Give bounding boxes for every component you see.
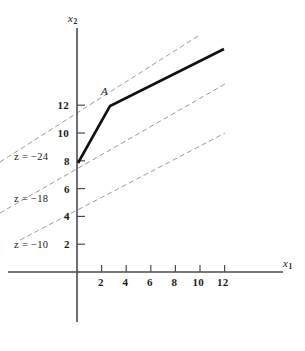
piecewise-linear-curve	[78, 49, 224, 163]
y-axis-ticks	[77, 105, 85, 244]
iso-label-z-minus-10: z = −10	[14, 240, 48, 251]
iso-line-z-minus-24	[0, 36, 198, 162]
plot-canvas	[0, 0, 305, 351]
x-tick-label-6: 6	[147, 277, 153, 288]
x-tick-label-12: 12	[217, 277, 228, 288]
x-axis-ticks	[102, 265, 225, 272]
y-axis-title-subscript: 2	[73, 17, 77, 26]
x-tick-label-2: 2	[98, 277, 104, 288]
y-tick-label-8: 8	[64, 156, 70, 167]
iso-label-z-minus-24: z = −24	[14, 152, 48, 163]
y-axis-title: x2	[68, 13, 77, 24]
iso-label-z-minus-18: z = −18	[14, 194, 48, 205]
y-tick-label-10: 10	[58, 128, 69, 139]
y-tick-label-4: 4	[64, 211, 70, 222]
x-axis-title-subscript: 1	[288, 262, 292, 271]
x-tick-label-4: 4	[123, 277, 129, 288]
y-tick-label-12: 12	[58, 100, 69, 111]
point-a-label: A	[101, 86, 108, 97]
figure-container: 2 4 6 8 10 12 2 4 6 8 10 12 x2 x1 z = −2…	[0, 0, 305, 351]
x-tick-label-8: 8	[172, 277, 178, 288]
y-tick-label-6: 6	[64, 184, 70, 195]
iso-line-z-minus-10	[20, 133, 225, 240]
x-axis-title: x1	[283, 258, 292, 269]
x-tick-label-10: 10	[193, 277, 204, 288]
y-tick-label-2: 2	[64, 239, 70, 250]
